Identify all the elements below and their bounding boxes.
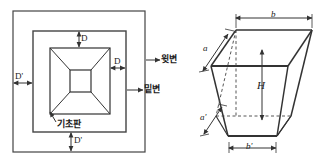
plan-diagonal-bl (50, 92, 70, 114)
iso-top-right-edge (288, 30, 312, 66)
iso-view-group (199, 14, 312, 153)
plan-diagonal-br (91, 92, 110, 114)
iso-slope-back-right (291, 30, 312, 116)
label-b-prime: b' (246, 142, 252, 151)
iso-slope-front-right (277, 66, 288, 136)
iso-dim-aprime-ext-bottom (200, 134, 209, 136)
label-bottom-side: 밑변 (144, 85, 160, 94)
label-a-prime: a' (200, 113, 206, 122)
iso-dim-aprime-ext-top (218, 104, 227, 106)
label-base-plate: 기초판 (57, 120, 81, 129)
plan-diagonal-tr (91, 48, 110, 70)
label-a-left: a (203, 44, 208, 53)
label-upper-side: 윗변 (161, 55, 177, 64)
figure-canvas: D D D' D' 기초판 윗변 밑변 b a H a' b' (0, 0, 318, 163)
plan-diagonal-tl (50, 48, 70, 70)
drawing-surface (0, 0, 318, 163)
iso-dim-a-ext-top (225, 29, 234, 31)
label-b-top: b (271, 10, 276, 19)
label-d-prime-left: D' (15, 72, 23, 81)
iso-hidden-slope-back-left (216, 30, 236, 116)
label-h-height: H (257, 80, 265, 91)
label-d-right: D (114, 57, 121, 66)
label-d-prime-bottom: D' (74, 136, 82, 145)
plan-center-square (70, 70, 91, 92)
label-d-top: D (81, 34, 88, 43)
